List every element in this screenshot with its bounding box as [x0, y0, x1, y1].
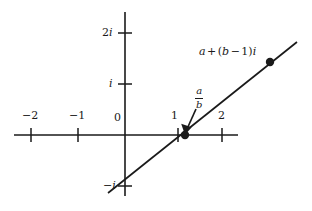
y-label-minus-i-unit: i — [112, 179, 116, 192]
point-expression-label: a+(b−1)i — [199, 46, 256, 57]
x-axis-label-zero: 0 — [114, 112, 121, 123]
x-axis-label-minus-2: −2 — [22, 110, 38, 121]
y-axis-label-i: i — [109, 78, 113, 89]
complex-plane-figure: −2 −1 0 1 2 2i i −i a+(b−1)i a b — [0, 0, 312, 211]
y-label-minus-sign: − — [103, 179, 112, 192]
expression-plus: + — [206, 45, 218, 58]
axes-and-line-graphics — [0, 0, 312, 211]
data-point-upper — [266, 58, 274, 66]
fraction-label: a b — [195, 86, 203, 110]
y-axis-label-minus-i: −i — [103, 180, 116, 191]
fraction-numerator: a — [195, 86, 203, 97]
data-point-one — [181, 131, 189, 139]
expression-a: a — [199, 45, 206, 58]
fraction-denominator: b — [195, 100, 203, 111]
y-label-two-number: 2 — [102, 26, 109, 39]
x-axis-label-minus-1: −1 — [69, 110, 85, 121]
expression-i: i — [253, 45, 257, 58]
x-axis-label-two: 2 — [218, 110, 225, 121]
x-axis-label-one: 1 — [171, 110, 178, 121]
y-label-i-unit: i — [109, 77, 113, 90]
y-label-two-i-unit: i — [109, 26, 113, 39]
expression-minus: − — [229, 45, 241, 58]
y-axis-label-two-i: 2i — [102, 27, 113, 38]
